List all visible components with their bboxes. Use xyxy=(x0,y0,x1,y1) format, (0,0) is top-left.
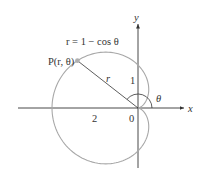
y-axis-label: y xyxy=(133,12,139,23)
origin-label: 0 xyxy=(129,113,134,124)
cardioid-diagram: r = 1 − cos θ P(r, θ) r θ x y 2 0 1 xyxy=(0,0,201,181)
diagram-canvas: r = 1 − cos θ P(r, θ) r θ x y 2 0 1 xyxy=(0,0,201,181)
point-p-marker xyxy=(75,58,80,63)
radius-label: r xyxy=(106,73,111,84)
tick-label-2: 2 xyxy=(92,113,97,124)
point-p-label: P(r, θ) xyxy=(48,56,75,68)
tick-label-1: 1 xyxy=(130,75,135,86)
radius-line xyxy=(77,61,138,108)
x-axis-label: x xyxy=(187,103,193,114)
theta-label: θ xyxy=(156,93,161,104)
equation-label: r = 1 − cos θ xyxy=(66,36,119,47)
